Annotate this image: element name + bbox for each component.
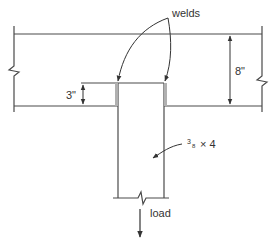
beam bbox=[9, 26, 267, 112]
right-break-symbol bbox=[257, 26, 267, 112]
plate-bottom-break bbox=[113, 192, 169, 204]
load-label: load bbox=[150, 207, 171, 219]
plate-size-numerator: 3 bbox=[187, 138, 191, 145]
plate-size-leader bbox=[153, 144, 182, 158]
weld-length-label: 3" bbox=[66, 89, 76, 101]
welded-connection-diagram: welds 3" 8" 3 8 × 4 load bbox=[0, 0, 275, 244]
weld-leader-right bbox=[165, 18, 171, 81]
plate-size-label: 3 8 × 4 bbox=[187, 138, 216, 150]
weld-right bbox=[164, 83, 167, 106]
weld-leader-left bbox=[118, 18, 168, 81]
weld-left bbox=[115, 83, 118, 106]
welds-label: welds bbox=[171, 7, 201, 19]
plate-size-denominator: 8 bbox=[192, 143, 196, 149]
left-break-symbol bbox=[9, 26, 19, 112]
plate bbox=[81, 83, 169, 204]
weld-leaders bbox=[118, 18, 171, 81]
plate-size-rest: × 4 bbox=[200, 138, 216, 150]
beam-depth-label: 8" bbox=[235, 65, 245, 77]
